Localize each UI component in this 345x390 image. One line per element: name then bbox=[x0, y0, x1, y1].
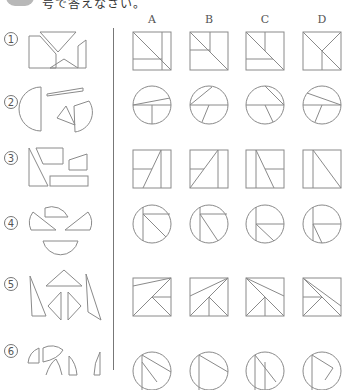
option-6b[interactable] bbox=[190, 352, 228, 390]
question-number-1: 1 bbox=[4, 32, 18, 46]
option-4a[interactable] bbox=[133, 205, 171, 243]
option-6d[interactable] bbox=[303, 352, 341, 390]
column-header-d: D bbox=[303, 13, 341, 26]
option-3a[interactable] bbox=[133, 150, 171, 188]
option-1c[interactable] bbox=[246, 32, 284, 70]
option-2c[interactable] bbox=[246, 86, 284, 124]
option-6a[interactable] bbox=[133, 352, 171, 390]
option-3d[interactable] bbox=[303, 150, 341, 188]
pieces-figure-5 bbox=[28, 268, 103, 320]
option-6c[interactable] bbox=[246, 352, 284, 390]
pieces-figure-4 bbox=[28, 208, 94, 254]
question-number-3: 3 bbox=[4, 151, 18, 165]
option-2a[interactable] bbox=[133, 86, 171, 124]
option-4c[interactable] bbox=[246, 205, 284, 243]
vertical-divider bbox=[113, 28, 114, 370]
option-5c[interactable] bbox=[246, 278, 284, 316]
column-header-b: B bbox=[190, 13, 228, 26]
column-header-a: A bbox=[133, 13, 171, 26]
question-number-4: 4 bbox=[4, 216, 18, 230]
column-header-c: C bbox=[246, 13, 284, 26]
option-5a[interactable] bbox=[133, 278, 171, 316]
option-1d[interactable] bbox=[303, 32, 341, 70]
pieces-figure-6 bbox=[28, 345, 108, 375]
option-2d[interactable] bbox=[303, 86, 341, 124]
option-2b[interactable] bbox=[190, 86, 228, 124]
pieces-figure-1 bbox=[28, 32, 88, 72]
question-number-6: 6 bbox=[4, 344, 18, 358]
option-3b[interactable] bbox=[190, 150, 228, 188]
question-number-2: 2 bbox=[4, 95, 18, 109]
option-4b[interactable] bbox=[190, 205, 228, 243]
instruction-text: 号で答えなさい。 bbox=[42, 0, 146, 11]
pieces-figure-3 bbox=[28, 148, 90, 190]
question-number-5: 5 bbox=[4, 277, 18, 291]
option-1b[interactable] bbox=[190, 32, 228, 70]
option-4d[interactable] bbox=[303, 205, 341, 243]
pieces-figure-2 bbox=[28, 86, 93, 134]
option-5d[interactable] bbox=[303, 278, 341, 316]
option-3c[interactable] bbox=[246, 150, 284, 188]
option-1a[interactable] bbox=[133, 32, 171, 70]
option-5b[interactable] bbox=[190, 278, 228, 316]
question-badge bbox=[6, 0, 34, 6]
